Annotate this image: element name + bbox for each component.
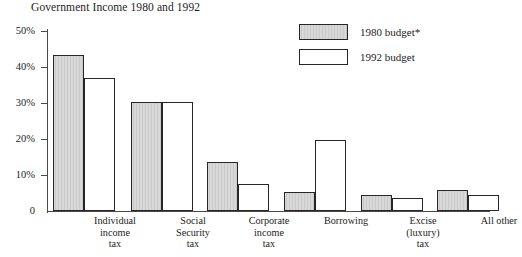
- bar-1980-5: [437, 190, 468, 211]
- x-axis-label-5: All other: [438, 215, 522, 227]
- y-tick-label-10: 10%: [1, 169, 35, 180]
- bar-1992-3: [315, 140, 346, 211]
- legend-swatch-1980-icon: [299, 24, 348, 40]
- y-tick-label-50: 50%: [1, 25, 35, 36]
- bar-1992-5: [468, 195, 499, 211]
- legend-label-1980: 1980 budget*: [360, 26, 420, 38]
- bar-1980-4: [361, 195, 392, 211]
- legend-swatch-1992-icon: [299, 49, 348, 65]
- bar-1980-3: [284, 192, 315, 211]
- y-tick-label-30: 30%: [1, 97, 35, 108]
- y-tick-label-40: 40%: [1, 61, 35, 72]
- bar-1980-0: [53, 55, 84, 211]
- bar-1980-2: [207, 162, 238, 211]
- chart-title: Government Income 1980 and 1992: [31, 1, 200, 13]
- legend-label-1992: 1992 budget: [360, 51, 415, 63]
- bar-1992-0: [84, 78, 115, 211]
- bar-1980-1: [131, 102, 162, 211]
- legend: 1980 budget* 1992 budget: [299, 22, 420, 72]
- y-tick-label-20: 20%: [1, 133, 35, 144]
- plot-area: [47, 31, 490, 211]
- bar-1992-1: [162, 102, 193, 211]
- legend-item-1992: 1992 budget: [299, 47, 420, 66]
- bar-1992-2: [238, 184, 269, 211]
- bar-1992-4: [392, 198, 423, 211]
- legend-item-1980: 1980 budget*: [299, 22, 420, 41]
- x-axis-line: [47, 211, 490, 212]
- y-tick-label-0: 0: [1, 205, 35, 216]
